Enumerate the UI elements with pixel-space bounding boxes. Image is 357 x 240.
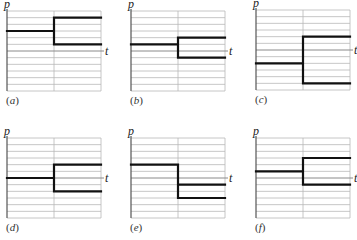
p-axis-label: p — [4, 0, 10, 10]
panel-caption: (c) — [255, 94, 267, 105]
panel-d: pt(d) — [0, 120, 118, 238]
caption-close-paren: ) — [262, 221, 266, 233]
p-axis-label: p — [253, 125, 259, 137]
panel-caption: (a) — [6, 95, 19, 106]
panel-c: pt(c) — [237, 0, 355, 118]
panel-caption: (b) — [130, 95, 143, 106]
t-axis-label: t — [105, 172, 108, 184]
caption-close-paren: ) — [264, 93, 268, 105]
step-curve — [131, 165, 225, 198]
t-axis-label: t — [229, 45, 232, 57]
panel-a: pt(a) — [0, 0, 118, 118]
p-axis-label: p — [128, 125, 134, 137]
caption-close-paren: ) — [15, 94, 19, 106]
panel-caption: (f) — [255, 222, 265, 233]
caption-close-paren: ) — [139, 221, 143, 233]
t-axis-label: t — [229, 172, 232, 184]
t-axis-label: t — [105, 45, 108, 57]
panel-caption: (d) — [6, 222, 19, 233]
panel-f: pt(f) — [237, 120, 355, 238]
panel-caption: (e) — [130, 222, 142, 233]
step-curve — [131, 38, 225, 58]
caption-close-paren: ) — [139, 94, 143, 106]
panel-e: pt(e) — [120, 120, 238, 238]
caption-close-paren: ) — [15, 221, 19, 233]
p-axis-label: p — [128, 0, 134, 10]
panel-b: pt(b) — [120, 0, 238, 118]
p-axis-label: p — [253, 0, 259, 9]
p-axis-label: p — [4, 125, 10, 137]
